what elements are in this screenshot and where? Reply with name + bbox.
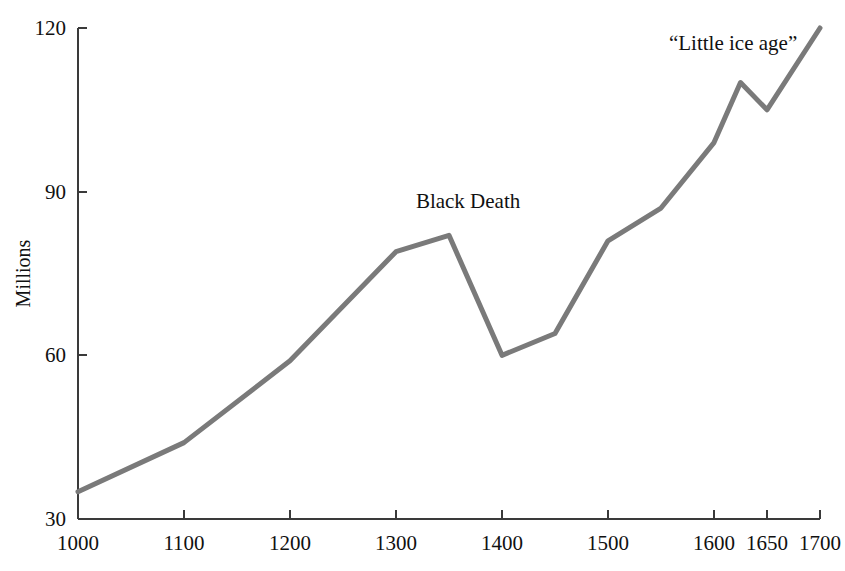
data-series-population xyxy=(78,28,820,492)
x-tick-label: 1400 xyxy=(481,531,523,555)
x-tick-label: 1600 xyxy=(693,531,735,555)
x-tick-label: 1650 xyxy=(746,531,788,555)
series-line xyxy=(78,28,820,492)
x-tick-label: 1000 xyxy=(57,531,99,555)
x-tick-label: 1700 xyxy=(799,531,841,555)
x-axis-ticks xyxy=(78,510,820,519)
x-axis-tick-labels: 100011001200130014001500160016501700 xyxy=(57,531,841,555)
population-line-chart: 306090120 100011001200130014001500160016… xyxy=(0,0,845,571)
y-tick-label: 120 xyxy=(35,16,67,40)
y-axis-label: Millions xyxy=(12,239,34,307)
y-axis-ticks xyxy=(78,28,87,519)
y-tick-label: 60 xyxy=(45,343,66,367)
x-tick-label: 1300 xyxy=(375,531,417,555)
y-tick-label: 90 xyxy=(45,180,66,204)
chart-canvas: 306090120 100011001200130014001500160016… xyxy=(0,0,845,571)
chart-annotations: Black Death“Little ice age” xyxy=(416,31,797,213)
x-tick-label: 1500 xyxy=(587,531,629,555)
x-tick-label: 1200 xyxy=(269,531,311,555)
y-axis-tick-labels: 306090120 xyxy=(35,16,67,531)
chart-annotation-label: “Little ice age” xyxy=(669,31,797,55)
x-tick-label: 1100 xyxy=(163,531,204,555)
y-axis-title: Millions xyxy=(12,239,34,307)
chart-annotation-label: Black Death xyxy=(416,189,521,213)
y-tick-label: 30 xyxy=(45,507,66,531)
